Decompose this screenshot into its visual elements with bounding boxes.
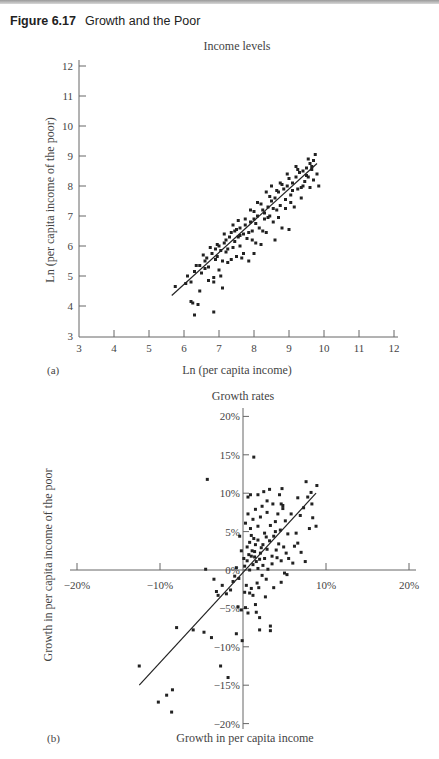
data-point: [314, 153, 317, 156]
data-point: [265, 535, 268, 538]
chart-a-title: Income levels: [204, 39, 271, 53]
data-point: [200, 272, 203, 275]
data-point: [311, 516, 314, 519]
data-point: [287, 557, 290, 560]
data-point: [170, 711, 173, 714]
data-point: [310, 491, 313, 494]
data-point: [254, 508, 257, 511]
data-point: [279, 204, 282, 207]
data-point: [261, 564, 264, 567]
data-point: [281, 227, 284, 230]
data-point: [309, 162, 312, 165]
data-point: [186, 275, 189, 278]
data-point: [239, 227, 242, 230]
data-point: [266, 499, 269, 502]
data-point: [277, 216, 280, 219]
data-point: [306, 496, 309, 499]
data-point: [288, 177, 291, 180]
data-point: [233, 230, 236, 233]
data-point: [214, 248, 217, 251]
data-point: [258, 558, 261, 561]
data-point: [235, 255, 238, 258]
data-point: [233, 575, 236, 578]
x-tick-label: 10%: [316, 579, 336, 591]
data-point: [212, 578, 215, 581]
data-point: [296, 496, 299, 499]
data-point: [258, 616, 261, 619]
data-point: [302, 170, 305, 173]
data-point: [221, 287, 224, 290]
data-point: [276, 556, 279, 559]
data-point: [281, 487, 284, 490]
data-point: [246, 512, 249, 515]
data-point: [265, 578, 268, 581]
data-point: [238, 535, 241, 538]
data-point: [212, 281, 215, 284]
y-tick-label: 10: [62, 120, 74, 132]
data-point: [245, 584, 248, 587]
data-point: [300, 551, 303, 554]
data-point: [195, 264, 198, 267]
data-point: [240, 257, 243, 260]
y-tick-label: 11: [62, 90, 73, 102]
data-point: [251, 518, 254, 521]
data-point: [295, 165, 298, 168]
data-point: [290, 512, 293, 515]
data-point: [215, 590, 218, 593]
data-point: [193, 270, 196, 273]
data-point: [261, 574, 264, 577]
data-point: [241, 639, 244, 642]
data-point: [283, 572, 286, 575]
data-point: [256, 201, 259, 204]
data-point: [299, 514, 302, 517]
chart-a-panel-label: (a): [47, 364, 60, 377]
data-point: [244, 224, 247, 227]
chart-b: Growth rates 20%15%10%5%0%−5%−10%−15%−20…: [41, 389, 419, 745]
y-tick-label: −20%: [214, 718, 240, 730]
data-point: [223, 242, 226, 245]
data-point: [206, 478, 209, 481]
x-tick-label: −20%: [64, 579, 90, 591]
data-point: [175, 626, 178, 629]
data-point: [281, 504, 284, 507]
data-point: [260, 243, 263, 246]
data-point: [317, 185, 320, 188]
data-point: [210, 636, 213, 639]
data-point: [221, 260, 224, 263]
data-point: [221, 584, 224, 587]
data-point: [226, 248, 229, 251]
data-point: [157, 701, 160, 704]
data-point: [230, 258, 233, 261]
y-tick-label: −15%: [214, 679, 240, 691]
data-point: [261, 230, 264, 233]
data-point: [249, 493, 252, 496]
x-tick-label: 9: [286, 342, 292, 354]
data-point: [235, 566, 238, 569]
data-point: [243, 591, 246, 594]
data-point: [254, 222, 257, 225]
data-point: [256, 493, 259, 496]
chart-a-x-label: Ln (per capita income): [182, 363, 292, 377]
data-point: [225, 239, 228, 242]
data-point: [279, 182, 282, 185]
x-tick-label: 7: [216, 342, 222, 354]
y-tick-label: 12: [62, 60, 73, 72]
chart-a-y-label: Ln (per capita income of the poor): [43, 117, 57, 282]
data-point: [197, 303, 200, 306]
data-point: [205, 257, 208, 260]
data-point: [230, 231, 233, 234]
data-point: [272, 586, 275, 589]
data-point: [256, 525, 259, 528]
data-point: [289, 201, 292, 204]
data-point: [248, 541, 251, 544]
data-point: [250, 587, 253, 590]
data-point: [260, 203, 263, 206]
data-point: [254, 603, 257, 606]
data-point: [242, 252, 245, 255]
data-point: [250, 534, 253, 537]
chart-b-y-label: Growth in per capita income of the poor: [41, 469, 55, 662]
data-point: [235, 632, 238, 635]
data-point: [268, 195, 271, 198]
data-point: [233, 240, 236, 243]
data-point: [291, 562, 294, 565]
